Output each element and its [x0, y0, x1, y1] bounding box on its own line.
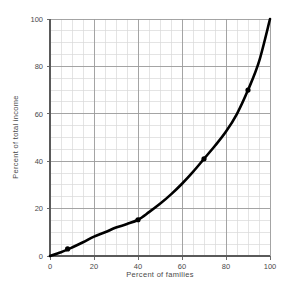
y-tick-label: 60 [35, 110, 43, 119]
y-tick-label: 80 [35, 62, 43, 71]
x-tick-label: 100 [264, 262, 277, 271]
data-point-marker [245, 88, 250, 93]
chart-canvas: 020406080100 020406080100 Percent of fam… [0, 0, 299, 291]
y-axis-tick-labels: 020406080100 [30, 15, 43, 261]
data-point-marker [135, 217, 140, 222]
y-tick-label: 100 [30, 15, 43, 24]
data-point-marker [201, 156, 206, 161]
y-tick-label: 20 [35, 204, 43, 213]
minor-gridlines [50, 19, 270, 256]
y-tick-label: 0 [39, 252, 43, 261]
x-tick-label: 20 [90, 262, 98, 271]
data-point-marker [65, 246, 70, 251]
x-tick-label: 0 [48, 262, 52, 271]
x-axis-title: Percent of families [126, 270, 193, 279]
y-tick-label: 40 [35, 157, 43, 166]
y-axis-title: Percent of total income [11, 95, 20, 179]
lorenz-curve-chart: 020406080100 020406080100 Percent of fam… [0, 0, 299, 291]
x-tick-label: 80 [222, 262, 230, 271]
